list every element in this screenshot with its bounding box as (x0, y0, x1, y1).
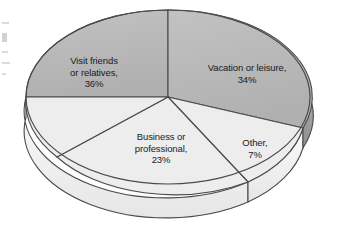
pie-chart-figure: Visit friends or relatives,36% Vacation … (0, 0, 337, 232)
slice-visit-friends (26, 10, 168, 97)
pie-chart-svg (0, 0, 337, 232)
